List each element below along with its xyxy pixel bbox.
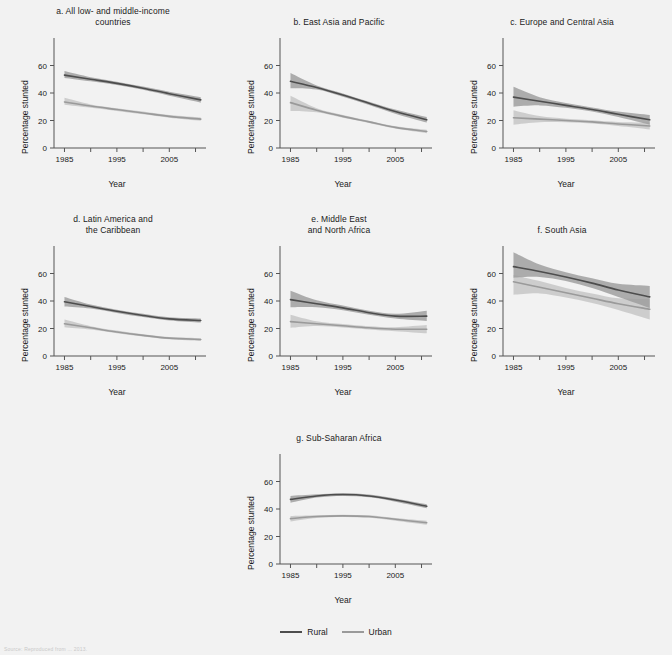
legend-swatch-rural [280, 631, 302, 634]
svg-text:0: 0 [269, 144, 274, 153]
panel-title-f: f. South Asia [452, 212, 672, 236]
svg-text:20: 20 [38, 117, 47, 126]
confidence-band-d-rural [64, 297, 200, 323]
svg-text:1985: 1985 [505, 363, 523, 372]
plot-svg-g: 0204060198519952005 [240, 444, 446, 594]
svg-text:40: 40 [487, 89, 496, 98]
plot-svg-a: 0204060198519952005 [14, 28, 220, 178]
x-axis-label-b: Year [240, 179, 446, 189]
chart-panel-g: g. Sub-Saharan Africa0204060198519952005… [226, 420, 452, 620]
svg-text:40: 40 [487, 297, 496, 306]
svg-text:2005: 2005 [160, 155, 178, 164]
legend-item-urban: Urban [342, 627, 392, 637]
plot-area-b: 0204060198519952005Percentage stuntedYea… [226, 28, 452, 194]
source-note: Source: Reproduced from ... 2013. [4, 646, 87, 652]
svg-text:0: 0 [492, 352, 497, 361]
plot-area-c: 0204060198519952005Percentage stuntedYea… [452, 28, 672, 194]
svg-text:40: 40 [264, 89, 273, 98]
svg-text:2005: 2005 [609, 363, 627, 372]
svg-text:2005: 2005 [386, 155, 404, 164]
x-axis-label-g: Year [240, 595, 446, 605]
svg-text:1985: 1985 [282, 155, 300, 164]
x-axis-label-f: Year [463, 387, 669, 397]
y-axis-label-a: Percentage stunted [20, 80, 30, 154]
svg-text:1995: 1995 [334, 571, 352, 580]
svg-text:1985: 1985 [56, 363, 74, 372]
svg-text:1995: 1995 [108, 155, 126, 164]
y-axis-label-e: Percentage stunted [246, 288, 256, 362]
plot-svg-b: 0204060198519952005 [240, 28, 446, 178]
svg-text:1995: 1995 [334, 363, 352, 372]
plot-area-d: 0204060198519952005Percentage stuntedYea… [0, 236, 226, 402]
svg-text:2005: 2005 [386, 363, 404, 372]
svg-text:20: 20 [487, 325, 496, 334]
chart-legend: RuralUrban [0, 627, 672, 637]
plot-svg-f: 0204060198519952005 [463, 236, 669, 386]
legend-label-urban: Urban [369, 627, 392, 637]
plot-area-a: 0204060198519952005Percentage stuntedYea… [0, 28, 226, 194]
y-axis-label-f: Percentage stunted [469, 288, 479, 362]
y-axis-label-g: Percentage stunted [246, 496, 256, 570]
panel-title-g: g. Sub-Saharan Africa [226, 420, 452, 444]
x-axis-label-d: Year [14, 387, 220, 397]
svg-text:60: 60 [487, 270, 496, 279]
svg-text:0: 0 [492, 144, 497, 153]
y-axis-label-d: Percentage stunted [20, 288, 30, 362]
svg-text:1985: 1985 [505, 155, 523, 164]
y-axis-label-c: Percentage stunted [469, 80, 479, 154]
svg-text:1985: 1985 [282, 363, 300, 372]
chart-panel-e: e. Middle East and North Africa020406019… [226, 212, 452, 412]
svg-text:0: 0 [269, 560, 274, 569]
svg-text:60: 60 [264, 62, 273, 71]
plot-svg-c: 0204060198519952005 [463, 28, 669, 178]
panel-title-a: a. All low- and middle-income countries [0, 4, 226, 28]
svg-text:0: 0 [43, 144, 48, 153]
panel-title-d: d. Latin America and the Caribbean [0, 212, 226, 236]
svg-text:60: 60 [38, 270, 47, 279]
svg-text:40: 40 [264, 297, 273, 306]
svg-text:60: 60 [38, 62, 47, 71]
svg-text:0: 0 [269, 352, 274, 361]
svg-text:20: 20 [38, 325, 47, 334]
svg-text:1995: 1995 [108, 363, 126, 372]
svg-text:2005: 2005 [160, 363, 178, 372]
svg-text:20: 20 [264, 117, 273, 126]
svg-text:60: 60 [264, 270, 273, 279]
svg-text:2005: 2005 [609, 155, 627, 164]
plot-svg-e: 0204060198519952005 [240, 236, 446, 386]
svg-text:40: 40 [38, 89, 47, 98]
chart-panel-a: a. All low- and middle-income countries0… [0, 4, 226, 204]
svg-text:20: 20 [487, 117, 496, 126]
svg-text:40: 40 [38, 297, 47, 306]
chart-panel-d: d. Latin America and the Caribbean020406… [0, 212, 226, 412]
plot-area-e: 0204060198519952005Percentage stuntedYea… [226, 236, 452, 402]
svg-text:1985: 1985 [56, 155, 74, 164]
svg-text:40: 40 [264, 505, 273, 514]
x-axis-label-e: Year [240, 387, 446, 397]
svg-text:20: 20 [264, 325, 273, 334]
plot-area-f: 0204060198519952005Percentage stuntedYea… [452, 236, 672, 402]
y-axis-label-b: Percentage stunted [246, 80, 256, 154]
legend-item-rural: Rural [280, 627, 327, 637]
x-axis-label-c: Year [463, 179, 669, 189]
legend-swatch-urban [342, 631, 364, 634]
panel-title-c: c. Europe and Central Asia [452, 4, 672, 28]
panel-title-b: b. East Asia and Pacific [226, 4, 452, 28]
svg-text:1995: 1995 [334, 155, 352, 164]
confidence-band-d-urban [64, 320, 200, 341]
svg-text:1995: 1995 [557, 363, 575, 372]
legend-label-rural: Rural [307, 627, 327, 637]
chart-panel-b: b. East Asia and Pacific0204060198519952… [226, 4, 452, 204]
svg-text:60: 60 [264, 478, 273, 487]
svg-text:2005: 2005 [386, 571, 404, 580]
plot-area-g: 0204060198519952005Percentage stuntedYea… [226, 444, 452, 610]
svg-text:20: 20 [264, 533, 273, 542]
svg-text:1985: 1985 [282, 571, 300, 580]
svg-text:60: 60 [487, 62, 496, 71]
panel-title-e: e. Middle East and North Africa [226, 212, 452, 236]
x-axis-label-a: Year [14, 179, 220, 189]
svg-text:1995: 1995 [557, 155, 575, 164]
stunting-figure: a. All low- and middle-income countries0… [0, 0, 672, 655]
chart-panel-f: f. South Asia0204060198519952005Percenta… [452, 212, 672, 412]
chart-panel-c: c. Europe and Central Asia02040601985199… [452, 4, 672, 204]
